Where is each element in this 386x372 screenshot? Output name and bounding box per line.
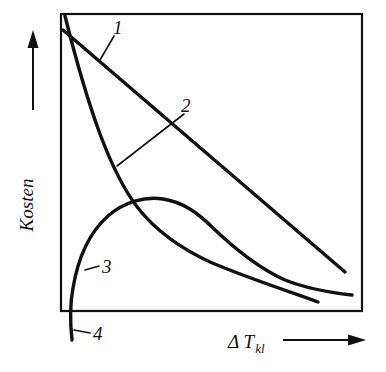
callout-leader-3 bbox=[85, 266, 99, 270]
x-axis-label: Δ Tkl bbox=[227, 331, 265, 356]
curve-label-2: 2 bbox=[181, 95, 191, 116]
callout-leader-1 bbox=[100, 36, 114, 60]
y-axis-label: Kosten bbox=[16, 179, 37, 233]
y-axis-arrow-head bbox=[28, 30, 39, 48]
curve-3-4-path bbox=[71, 198, 352, 340]
cost-vs-temperature-diagram: 1 2 3 4 Kosten Δ Tkl bbox=[0, 0, 386, 372]
curve-label-4: 4 bbox=[93, 323, 103, 344]
diagram-svg: 1 2 3 4 Kosten Δ Tkl bbox=[0, 0, 386, 372]
x-axis-label-main: Δ T bbox=[227, 331, 256, 352]
curve-label-1: 1 bbox=[113, 17, 123, 38]
curve-label-3: 3 bbox=[101, 256, 112, 277]
x-axis-label-subscript: kl bbox=[255, 341, 265, 356]
callout-leader-4 bbox=[74, 330, 90, 333]
x-axis-arrow-head bbox=[348, 335, 366, 346]
callout-leader-2 bbox=[117, 114, 184, 166]
